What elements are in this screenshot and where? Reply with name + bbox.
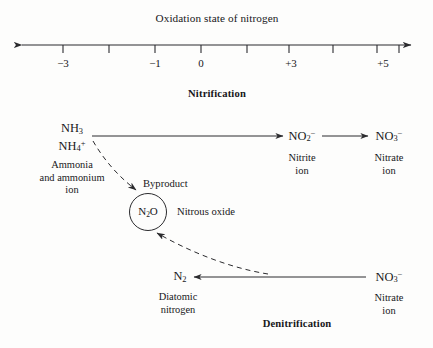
dinitrogen-formula-sub: 2 (182, 274, 186, 284)
ammonia-formula-sub: 3 (79, 126, 83, 136)
axis-title: Oxidation state of nitrogen (156, 12, 279, 25)
tick-label-zero: 0 (198, 57, 204, 69)
nitrate-top-formula-sup: − (398, 128, 403, 138)
byproduct-label: Byproduct (143, 178, 188, 190)
axis-ticks (63, 45, 399, 53)
dinitrogen-formula-main: N (173, 269, 182, 283)
species-nitrous-oxide-formula: N2O (138, 205, 158, 219)
dinitrogen-caption-line-2: nitrogen (159, 304, 198, 317)
ammonia-caption-line-1: Ammonia (40, 159, 105, 172)
nitrate-top-caption-line-2: ion (375, 165, 404, 178)
species-nitrate-top-caption: Nitrate ion (375, 152, 404, 177)
ammonia-formula-main: NH (61, 121, 79, 135)
nitrite-formula-sup: − (311, 128, 316, 138)
nitrogen-cycle-diagram: Oxidation state of nitrogen −3 −1 0 +3 +… (0, 0, 433, 348)
tick-label-plus-three: +3 (285, 57, 297, 69)
tick-label-minus-one: −1 (149, 57, 161, 69)
species-ammonia-caption: Ammonia and ammonium ion (40, 159, 105, 197)
species-nitrate-bottom-caption: Nitrate ion (375, 292, 404, 317)
nitrite-caption-line-1: Nitrite (288, 152, 315, 165)
nitrate-bottom-formula-sup: − (398, 269, 403, 279)
nitrate-bottom-caption-line-1: Nitrate (375, 292, 404, 305)
species-dinitrogen-formula: N2 (173, 270, 186, 284)
species-nitrite-formula: NO2− (289, 129, 316, 144)
dinitrogen-caption-line-1: Diatomic (159, 291, 198, 304)
species-nitrate-top-formula: NO3− (376, 129, 403, 144)
species-nitrate-bottom-formula: NO3− (376, 270, 403, 285)
nitrite-formula-main: NO (289, 129, 307, 143)
nitrous-oxide-formula-main: N (138, 205, 146, 217)
process-label-nitrification: Nitrification (188, 88, 246, 100)
nitrite-caption-line-2: ion (288, 165, 315, 178)
nitrous-oxide-formula-tail: O (150, 205, 158, 217)
ammonium-formula-main: NH (59, 139, 77, 153)
nitrous-oxide-label: Nitrous oxide (177, 206, 235, 218)
nitrate-bottom-formula-main: NO (376, 270, 394, 284)
nitrate-top-formula-main: NO (376, 129, 394, 143)
ammonium-formula-sup: + (81, 138, 86, 148)
tick-label-minus-three: −3 (57, 57, 69, 69)
arrow-denitrification-to-nitrous-oxide (157, 233, 268, 274)
species-nitrite-caption: Nitrite ion (288, 152, 315, 177)
species-dinitrogen-caption: Diatomic nitrogen (159, 291, 198, 316)
species-ammonium-formula: NH4+ (59, 139, 86, 154)
process-label-denitrification: Denitrification (263, 318, 332, 330)
nitrate-bottom-caption-line-2: ion (375, 305, 404, 318)
ammonia-caption-line-3: ion (40, 184, 105, 197)
ammonia-caption-line-2: and ammonium (40, 172, 105, 185)
nitrate-top-caption-line-1: Nitrate (375, 152, 404, 165)
oxidation-axis (22, 45, 411, 53)
tick-label-plus-five: +5 (377, 57, 389, 69)
species-ammonia-formula: NH3 (61, 122, 83, 136)
